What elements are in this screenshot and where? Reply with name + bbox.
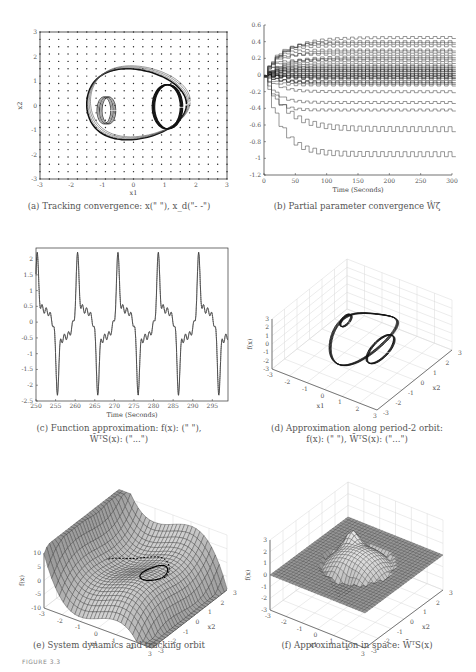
svg-text:-1: -1 [408, 389, 414, 396]
panel-c-function-approximation: 25025526026527027528028529029521.510.50-… [0, 220, 238, 420]
svg-text:-2: -2 [68, 181, 74, 188]
svg-text:-2: -2 [31, 151, 37, 158]
svg-text:3: 3 [373, 412, 377, 419]
svg-text:f(x): f(x) [18, 574, 26, 586]
svg-text:Time (Seconds): Time (Seconds) [106, 411, 158, 419]
svg-text:-3: -3 [37, 181, 43, 188]
svg-text:0: 0 [29, 318, 33, 325]
phase-portrait-plot: -3-2-101233210-1-2-3x1x2 [0, 0, 238, 200]
svg-text:0: 0 [314, 631, 318, 638]
svg-text:300: 300 [446, 177, 458, 184]
svg-text:-0.4: -0.4 [249, 104, 261, 111]
svg-text:0: 0 [410, 618, 414, 625]
orbit-3d-plot: -3-2-10123-3-2-101233210-1-2-3x1x2f(x) [238, 220, 476, 420]
svg-text:-1: -1 [263, 348, 269, 355]
svg-text:5: 5 [37, 563, 41, 570]
svg-text:3: 3 [361, 650, 365, 657]
function-approximation-plot: 25025526026527027528028529029521.510.50-… [0, 220, 238, 420]
svg-text:-2: -2 [57, 617, 63, 624]
svg-text:-3: -3 [383, 409, 389, 416]
svg-text:-0.6: -0.6 [249, 121, 261, 128]
svg-text:1: 1 [208, 608, 212, 615]
svg-text:-2: -2 [263, 357, 269, 364]
svg-text:2: 2 [446, 359, 450, 366]
svg-text:3: 3 [148, 650, 152, 657]
svg-text:0: 0 [263, 571, 267, 578]
svg-text:-1: -1 [183, 628, 189, 635]
approximation-surface-plot: -3-2-10123-3-2-101233210-1-2-3x1x2f(x) [238, 460, 476, 640]
svg-text:3: 3 [263, 536, 267, 543]
svg-text:-0.2: -0.2 [249, 88, 261, 95]
panel-f-approx-space: -3-2-10123-3-2-101233210-1-2-3x1x2f(x) [238, 460, 476, 640]
svg-text:-5: -5 [35, 590, 41, 597]
svg-text:-3: -3 [267, 371, 273, 378]
svg-text:285: 285 [167, 402, 179, 409]
svg-text:1: 1 [423, 608, 427, 615]
svg-text:3: 3 [265, 315, 269, 322]
panel-d-orbit-3d: -3-2-10123-3-2-101233210-1-2-3x1x2f(x) [238, 220, 476, 420]
svg-text:f(x): f(x) [244, 569, 252, 581]
caption-d-line1: (d) Approximation along period-2 orbit: [238, 423, 476, 434]
svg-text:-1: -1 [397, 628, 403, 635]
svg-text:x2: x2 [433, 384, 441, 392]
svg-text:0: 0 [265, 340, 269, 347]
svg-text:250: 250 [415, 177, 427, 184]
weight-convergence-plot: 0501001502002503000.60.40.20-0.2-0.4-0.6… [238, 0, 476, 200]
svg-text:-0.8: -0.8 [249, 138, 261, 145]
svg-text:1.5: 1.5 [23, 271, 33, 278]
svg-text:-3: -3 [261, 606, 267, 613]
svg-text:x2: x2 [422, 623, 430, 631]
svg-text:-2: -2 [27, 381, 33, 388]
svg-text:2: 2 [221, 599, 225, 606]
svg-text:-1: -1 [302, 385, 308, 392]
svg-text:270: 270 [109, 402, 121, 409]
svg-text:295: 295 [207, 402, 219, 409]
svg-text:Time (Seconds): Time (Seconds) [332, 186, 384, 194]
svg-text:1: 1 [338, 398, 342, 405]
svg-text:2: 2 [29, 255, 33, 262]
svg-text:2: 2 [436, 599, 440, 606]
svg-text:260: 260 [69, 402, 81, 409]
svg-text:x2: x2 [208, 623, 216, 631]
svg-text:2: 2 [356, 405, 360, 412]
caption-a: (a) Tracking convergence: x(" "), x_d("-… [0, 201, 238, 212]
svg-text:3: 3 [225, 181, 229, 188]
svg-text:-1: -1 [75, 623, 81, 630]
svg-text:1: 1 [433, 369, 437, 376]
svg-text:275: 275 [128, 402, 140, 409]
svg-text:1: 1 [33, 77, 37, 84]
svg-text:-1: -1 [99, 181, 105, 188]
svg-text:0.5: 0.5 [23, 302, 33, 309]
svg-text:0.2: 0.2 [251, 54, 261, 61]
svg-text:0.6: 0.6 [251, 21, 261, 28]
svg-text:-1: -1 [27, 350, 33, 357]
svg-text:-10: -10 [31, 604, 41, 611]
svg-text:-1: -1 [31, 126, 37, 133]
svg-text:50: 50 [292, 177, 300, 184]
svg-text:-3: -3 [31, 175, 37, 182]
svg-text:1: 1 [163, 181, 167, 188]
panel-a-tracking-convergence: -3-2-101233210-1-2-3x1x2 [0, 0, 238, 220]
svg-text:0: 0 [132, 181, 136, 188]
caption-d: (d) Approximation along period-2 orbit: … [238, 423, 476, 445]
svg-text:2: 2 [194, 181, 198, 188]
svg-text:0: 0 [421, 379, 425, 386]
svg-text:290: 290 [187, 402, 199, 409]
panel-e-system-dynamics: -3-2-10123-3-2-101231050-5-10x1x2f(x) [0, 460, 238, 640]
caption-c-line2: W̄ᵀS(x): ("...") [0, 434, 238, 445]
svg-text:0: 0 [321, 392, 325, 399]
svg-text:x1: x1 [317, 402, 325, 410]
svg-text:2: 2 [33, 53, 37, 60]
figure-label: FIGURE 3.3 [22, 658, 61, 665]
svg-text:-2: -2 [261, 594, 267, 601]
svg-text:0: 0 [37, 577, 41, 584]
svg-text:-2: -2 [396, 399, 402, 406]
caption-f: (f) Approximation in space: W̄ᵀS(x) [238, 640, 476, 651]
svg-text:1: 1 [29, 287, 33, 294]
dynamics-surface-plot: -3-2-10123-3-2-101231050-5-10x1x2f(x) [0, 460, 238, 640]
panel-b-parameter-convergence: 0501001502002503000.60.40.20-0.2-0.4-0.6… [238, 0, 476, 220]
svg-text:10: 10 [33, 549, 41, 556]
svg-text:2: 2 [265, 323, 269, 330]
svg-text:-1: -1 [297, 625, 303, 632]
svg-text:x2: x2 [16, 102, 24, 110]
